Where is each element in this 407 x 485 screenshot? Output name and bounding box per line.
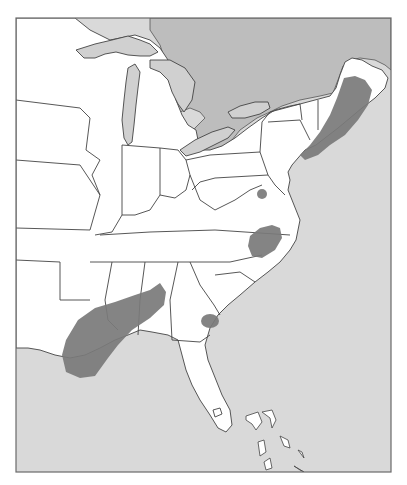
map — [0, 0, 407, 485]
region-northern-virginia — [257, 189, 267, 199]
region-georgia-coast — [201, 314, 219, 328]
